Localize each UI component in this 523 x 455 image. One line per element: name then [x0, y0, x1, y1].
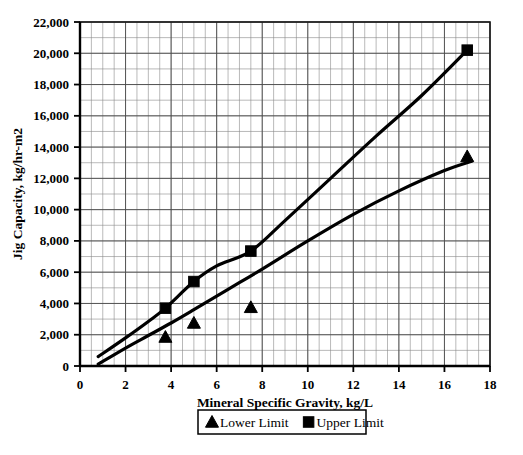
- x-axis-tick-label: 2: [122, 377, 129, 392]
- y-axis-tick-label: 22,000: [33, 15, 69, 30]
- y-axis-tick-label: 6,000: [40, 265, 69, 280]
- chart-legend: Lower LimitUpper Limit: [198, 410, 384, 434]
- data-marker-upper-limit: [462, 45, 473, 56]
- x-axis-tick-label: 12: [347, 377, 360, 392]
- y-axis-tick-label: 0: [63, 359, 70, 374]
- y-axis-tick-label: 14,000: [33, 140, 69, 155]
- x-axis-tick-label: 18: [484, 377, 498, 392]
- y-axis-tick-label: 8,000: [40, 233, 69, 248]
- jig-capacity-chart: 02,0004,0006,0008,00010,00012,00014,0001…: [0, 0, 523, 455]
- y-axis-tick-label: 12,000: [33, 171, 69, 186]
- y-axis-tick-label: 2,000: [40, 327, 69, 342]
- legend-label-lower-limit: Lower Limit: [220, 415, 289, 430]
- x-axis-tick-label: 14: [392, 377, 406, 392]
- y-axis-tick-label: 18,000: [33, 77, 69, 92]
- y-axis-tick-label: 10,000: [33, 202, 69, 217]
- x-axis-tick-label: 6: [213, 377, 220, 392]
- x-axis-tick-labels: 024681012141618: [77, 377, 497, 392]
- y-axis-tick-label: 16,000: [33, 108, 69, 123]
- legend-marker-square: [303, 417, 314, 428]
- y-axis-tick-label: 4,000: [40, 296, 69, 311]
- data-marker-upper-limit: [160, 303, 171, 314]
- x-axis-tick-label: 8: [259, 377, 266, 392]
- x-axis-tick-label: 10: [301, 377, 314, 392]
- x-axis-tick-label: 4: [168, 377, 175, 392]
- data-marker-upper-limit: [246, 246, 256, 257]
- x-axis-tick-label: 16: [438, 377, 452, 392]
- y-axis-title: Jig Capacity, kg/hr-m2: [10, 128, 25, 260]
- x-axis-title: Mineral Specific Gravity, kg/L: [197, 395, 373, 410]
- legend-label-upper-limit: Upper Limit: [317, 415, 384, 430]
- x-axis-tick-label: 0: [77, 377, 84, 392]
- data-marker-upper-limit: [189, 276, 200, 287]
- y-axis-tick-label: 20,000: [33, 46, 69, 61]
- figure-container: 02,0004,0006,0008,00010,00012,00014,0001…: [0, 0, 523, 455]
- y-axis-tick-labels: 02,0004,0006,0008,00010,00012,00014,0001…: [33, 15, 69, 374]
